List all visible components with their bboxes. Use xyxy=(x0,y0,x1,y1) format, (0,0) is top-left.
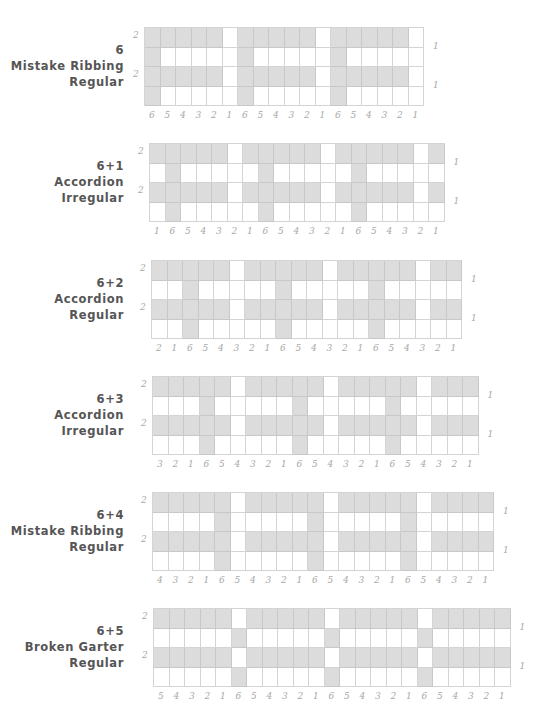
grid-cell-shaded xyxy=(393,28,409,48)
grid-cell-shaded xyxy=(183,320,199,340)
column-labels: 54321654321654321654321 xyxy=(153,691,510,701)
grid-cell-empty xyxy=(416,281,432,301)
grid-cell-empty xyxy=(294,629,310,649)
grid-cell-shaded xyxy=(355,416,371,436)
grid-cell-empty xyxy=(245,281,261,301)
grid-cell-shaded xyxy=(402,648,418,668)
column-label: 3 xyxy=(261,575,277,585)
column-label: 2 xyxy=(151,343,167,353)
grid-cell-shaded xyxy=(274,144,290,164)
grid-cell-shaded xyxy=(367,183,383,203)
column-label: 4 xyxy=(196,226,212,236)
grid-cell-shaded xyxy=(263,609,279,629)
grid-cell-empty xyxy=(416,300,432,320)
grid-cell-shaded xyxy=(386,436,402,456)
column-label: 6 xyxy=(400,575,416,585)
grid-cell-shaded xyxy=(216,648,232,668)
grid-cell-empty xyxy=(480,668,496,688)
grid-cell-empty xyxy=(207,48,223,68)
grid-cell-shaded xyxy=(294,609,310,629)
grid-cell-empty xyxy=(200,513,216,533)
grid-cell-shaded xyxy=(153,532,169,552)
grid-cell-shaded xyxy=(387,609,403,629)
grid-cell-empty xyxy=(277,436,293,456)
grid-cell-empty xyxy=(153,513,169,533)
grid-cell-empty xyxy=(246,436,262,456)
stitch-grid xyxy=(153,608,511,687)
row-label-right: 1 xyxy=(503,506,509,516)
grid-cell-shaded xyxy=(259,203,275,223)
grid-cell-empty xyxy=(463,513,479,533)
grid-cell-empty xyxy=(152,320,168,340)
grid-cell-shaded xyxy=(269,28,285,48)
row-label-right: 1 xyxy=(520,622,526,632)
grid-cell-shaded xyxy=(308,513,324,533)
column-label: 2 xyxy=(200,691,216,701)
column-label: 2 xyxy=(447,459,463,469)
grid-cell-shaded xyxy=(169,493,185,513)
grid-cell-empty xyxy=(417,493,433,513)
grid-cell-shaded xyxy=(216,609,232,629)
grid-cell-empty xyxy=(495,629,511,649)
grid-cell-empty xyxy=(199,320,215,340)
grid-row xyxy=(150,183,445,203)
grid-cell-shaded xyxy=(401,552,417,572)
grid-cell-empty xyxy=(355,436,371,456)
grid-cell-empty xyxy=(324,416,340,436)
grid-cell-shaded xyxy=(161,67,177,87)
grid-cell-empty xyxy=(285,87,301,107)
grid-cell-shaded xyxy=(243,183,259,203)
chart-title-line: Accordion xyxy=(54,407,124,423)
grid-cell-shaded xyxy=(339,377,355,397)
grid-row xyxy=(150,144,445,164)
column-label: 1 xyxy=(315,110,331,120)
row-label-left: 2 xyxy=(138,185,144,195)
grid-cell-empty xyxy=(274,164,290,184)
grid-cell-empty xyxy=(417,377,433,397)
grid-cell-empty xyxy=(246,513,262,533)
column-label: 6 xyxy=(214,575,230,585)
grid-cell-empty xyxy=(305,164,321,184)
grid-cell-shaded xyxy=(262,532,278,552)
grid-cell-empty xyxy=(387,629,403,649)
grid-cell-shaded xyxy=(340,609,356,629)
grid-cell-empty xyxy=(150,203,166,223)
row-label-left: 2 xyxy=(133,69,139,79)
grid-cell-empty xyxy=(293,552,309,572)
grid-cell-empty xyxy=(278,629,294,649)
grid-cell-empty xyxy=(338,320,354,340)
chart-title-line: Regular xyxy=(11,74,124,90)
column-label: 3 xyxy=(191,110,207,120)
grid-cell-empty xyxy=(176,48,192,68)
grid-cell-empty xyxy=(447,281,463,301)
grid-cell-shaded xyxy=(369,320,385,340)
grid-cell-shaded xyxy=(185,609,201,629)
grid-cell-empty xyxy=(161,48,177,68)
grid-cell-shaded xyxy=(336,144,352,164)
column-label: 1 xyxy=(494,691,510,701)
grid-cell-empty xyxy=(417,513,433,533)
row-label-left: 2 xyxy=(141,418,147,428)
grid-cell-empty xyxy=(323,300,339,320)
grid-cell-shaded xyxy=(154,609,170,629)
row-label-right: 1 xyxy=(471,274,477,284)
grid-cell-empty xyxy=(212,203,228,223)
grid-cell-empty xyxy=(231,436,247,456)
column-label: 1 xyxy=(199,575,215,585)
column-label: 4 xyxy=(399,343,415,353)
grid-cell-empty xyxy=(448,397,464,417)
grid-cell-empty xyxy=(201,629,217,649)
grid-cell-shaded xyxy=(200,397,216,417)
grid-cell-empty xyxy=(431,281,447,301)
column-label: 1 xyxy=(308,691,324,701)
grid-cell-empty xyxy=(339,552,355,572)
grid-cell-empty xyxy=(324,436,340,456)
row-label-left: 2 xyxy=(140,263,146,273)
grid-cell-empty xyxy=(308,397,324,417)
column-label: 3 xyxy=(338,459,354,469)
grid-cell-empty xyxy=(340,668,356,688)
grid-cell-empty xyxy=(169,436,185,456)
grid-cell-shaded xyxy=(386,397,402,417)
grid-cell-empty xyxy=(401,436,417,456)
column-label: 3 xyxy=(415,343,431,353)
